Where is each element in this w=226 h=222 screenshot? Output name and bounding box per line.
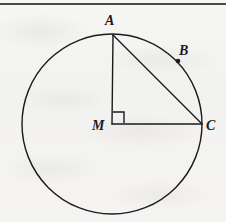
segment-a-c bbox=[113, 35, 202, 124]
right-angle-marker bbox=[113, 112, 124, 123]
geometry-figure: A B C M bbox=[0, 0, 226, 222]
point-marker-b bbox=[176, 59, 181, 64]
figure-canvas bbox=[0, 0, 226, 222]
point-label-b: B bbox=[179, 44, 188, 58]
point-label-a: A bbox=[105, 14, 114, 28]
segment-m-a bbox=[112, 35, 113, 124]
point-label-m: M bbox=[92, 119, 104, 133]
point-label-c: C bbox=[206, 119, 215, 133]
